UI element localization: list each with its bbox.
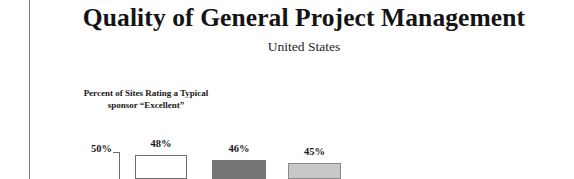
- y-axis-tick-label-50: 50%: [74, 142, 112, 155]
- bar-1: [135, 155, 187, 179]
- chart-screenshot: Quality of General Project Management Un…: [0, 0, 574, 179]
- bar-1-value-label: 48%: [135, 137, 187, 150]
- bar-3: [288, 163, 341, 179]
- bar-2-value-label: 46%: [212, 142, 266, 155]
- plot-area: 50% 48% 46% 45%: [0, 0, 574, 179]
- bar-2: [212, 160, 266, 179]
- y-axis-line: [119, 152, 120, 179]
- y-axis-tick-50: [113, 152, 119, 153]
- bar-3-value-label: 45%: [288, 145, 341, 158]
